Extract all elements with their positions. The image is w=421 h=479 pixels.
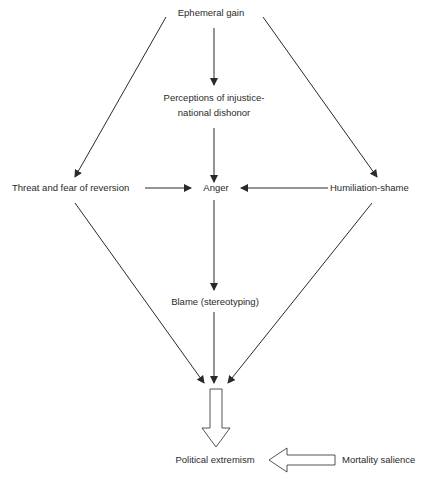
arrow-threat-to-extremism [75,203,204,383]
node-political-extremism: Political extremism [175,452,254,467]
arrow-humiliation-to-extremism [228,203,372,383]
node-anger: Anger [203,180,228,195]
node-threat: Threat and fear of reversion [12,180,129,195]
node-perceptions-line1: Perceptions of injustice- [164,90,265,105]
node-mortality-salience: Mortality salience [342,452,415,467]
node-ephemeral-gain: Ephemeral gain [178,5,245,20]
arrow-gain-to-humiliation [263,17,377,177]
hollow-left-arrow [269,448,335,472]
diagram-arrows [0,0,421,479]
node-perceptions-line2: national dishonor [178,105,250,120]
hollow-down-arrow [202,389,230,447]
node-humiliation: Humiliation-shame [330,180,409,195]
arrow-gain-to-threat [75,17,166,177]
node-blame: Blame (stereotyping) [171,294,259,309]
